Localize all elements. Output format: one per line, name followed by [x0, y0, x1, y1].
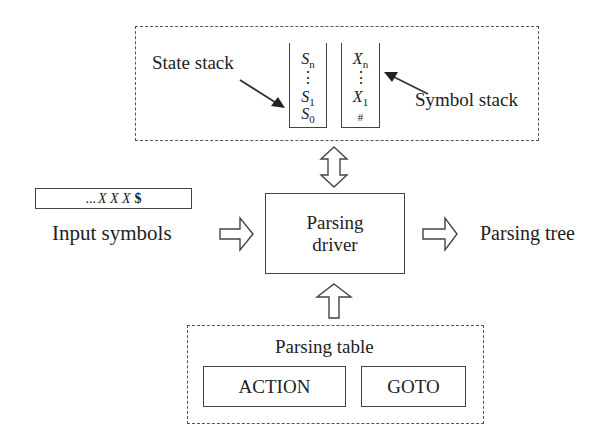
goto-table-label: GOTO	[387, 376, 439, 398]
action-table-box: ACTION	[203, 366, 346, 407]
goto-table-box: GOTO	[361, 366, 466, 407]
parsing-table-label: Parsing table	[275, 336, 374, 358]
action-table-label: ACTION	[239, 376, 311, 398]
